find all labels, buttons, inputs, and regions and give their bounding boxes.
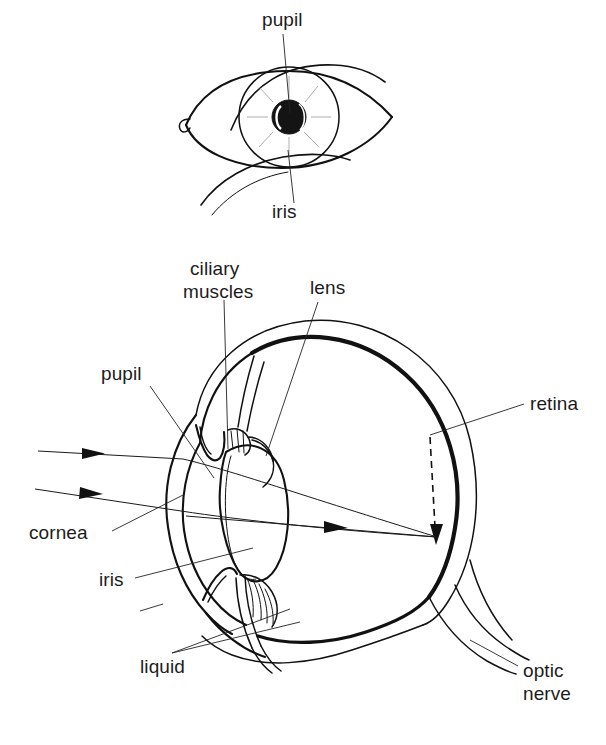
leader-iris-top <box>288 150 294 203</box>
ciliary-muscle-upper <box>228 356 274 487</box>
optic-nerve-lower-edge <box>429 597 516 674</box>
lens-body <box>220 445 288 581</box>
leader-optic-nerve <box>470 640 518 666</box>
sclera-outer-wall-lower <box>202 625 423 663</box>
ray-axial-arrowhead <box>324 521 348 533</box>
ray-lower-incident <box>35 489 181 511</box>
leader-lens <box>266 302 318 456</box>
label-ciliary-muscles-line1: ciliary <box>190 258 240 279</box>
label-lens: lens <box>310 277 345 298</box>
label-optic-nerve-line2: nerve <box>523 683 571 704</box>
label-liquid: liquid <box>140 656 185 677</box>
label-optic-nerve-line1: optic <box>523 660 564 681</box>
label-retina: retina <box>530 393 578 414</box>
optic-nerve-sheath <box>470 560 512 640</box>
leader-iris-section <box>135 548 253 578</box>
label-ciliary-muscles-line2: muscles <box>183 281 253 302</box>
choroid-lower-layer <box>258 597 429 642</box>
eye-cross-section-group: ciliary muscles lens pupil retina cornea… <box>29 258 578 704</box>
cornea-inner-curve <box>183 443 246 625</box>
inverted-image-arrow-shaft <box>430 437 435 527</box>
label-cornea: cornea <box>29 522 88 543</box>
leader-retina <box>430 404 524 435</box>
optic-nerve-upper-edge <box>455 585 529 660</box>
inverted-image-arrow-head <box>430 524 443 545</box>
iris-lower-leaf-inner <box>208 576 226 602</box>
retina-layer <box>252 337 458 597</box>
label-iris-top: iris <box>272 201 297 222</box>
tick-mark-iris <box>140 604 163 611</box>
label-pupil-section: pupil <box>101 363 142 384</box>
leader-cornea <box>112 494 185 531</box>
label-pupil-top: pupil <box>262 9 303 30</box>
ray-upper-incident <box>38 451 183 459</box>
sclera-outer-wall <box>196 320 476 625</box>
leader-pupil-section <box>150 386 214 478</box>
leader-liquid-lower <box>172 622 300 653</box>
ray-lower-refracted <box>181 511 437 537</box>
external-eye-group: pupil iris <box>179 9 392 222</box>
ray-upper-arrowhead <box>82 448 105 459</box>
eye-diagram-canvas: pupil iris <box>0 0 606 745</box>
label-iris-section: iris <box>99 569 124 590</box>
iris-lower-leaf <box>203 568 237 600</box>
eye-anatomy-figure: pupil iris <box>0 0 606 745</box>
